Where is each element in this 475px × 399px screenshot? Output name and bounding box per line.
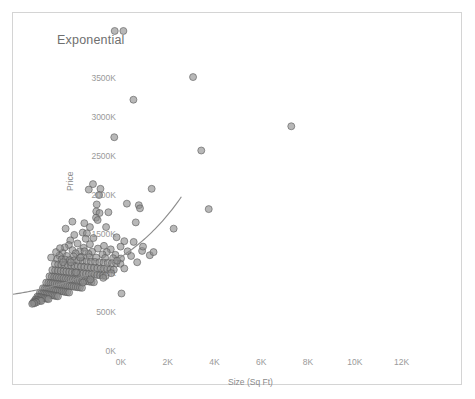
scatter-point[interactable] — [67, 259, 74, 266]
scatter-point[interactable] — [123, 200, 130, 207]
scatter-point[interactable] — [111, 27, 118, 34]
y-tick-label: 0K — [106, 346, 116, 356]
x-tick-label: 12K — [394, 357, 409, 367]
scatter-point[interactable] — [170, 225, 177, 232]
scatter-point[interactable] — [90, 235, 97, 242]
scatter-point[interactable] — [113, 234, 120, 241]
scatter-point[interactable] — [121, 265, 128, 272]
scatter-point[interactable] — [134, 259, 141, 266]
scatter-point[interactable] — [150, 249, 157, 256]
scatter-point[interactable] — [205, 206, 212, 213]
scatter-point[interactable] — [86, 241, 93, 248]
scatter-point[interactable] — [54, 293, 61, 300]
y-tick-label: 500K — [96, 307, 116, 317]
x-tick-label: 4K — [209, 357, 219, 367]
scatter-point[interactable] — [130, 96, 137, 103]
scatter-point[interactable] — [85, 186, 92, 193]
scatter-point[interactable] — [108, 270, 115, 277]
x-tick-label: 8K — [303, 357, 313, 367]
scatter-point[interactable] — [74, 240, 81, 247]
scatter-point[interactable] — [96, 192, 103, 199]
scatter-plot-canvas[interactable] — [13, 13, 317, 306]
scatter-point[interactable] — [62, 225, 69, 232]
scatter-point[interactable] — [118, 290, 125, 297]
scatter-point[interactable] — [93, 201, 100, 208]
scatter-point[interactable] — [48, 254, 55, 261]
scatter-point[interactable] — [128, 252, 135, 259]
scatter-point[interactable] — [132, 219, 139, 226]
x-tick-label: 6K — [256, 357, 266, 367]
scatter-point[interactable] — [69, 218, 76, 225]
scatter-point[interactable] — [148, 185, 155, 192]
scatter-series — [29, 27, 295, 307]
scatter-point[interactable] — [120, 27, 127, 34]
x-tick-label: 2K — [163, 357, 173, 367]
scatter-point[interactable] — [136, 205, 143, 212]
scatter-point[interactable] — [288, 123, 295, 130]
scatter-point[interactable] — [66, 289, 73, 296]
scatter-point[interactable] — [190, 74, 197, 81]
scatter-point[interactable] — [111, 134, 118, 141]
scatter-point[interactable] — [45, 296, 52, 303]
scatter-point[interactable] — [86, 224, 93, 231]
x-tick-label: 10K — [347, 357, 362, 367]
scatter-point[interactable] — [94, 217, 101, 224]
scatter-point[interactable] — [100, 274, 107, 281]
scatter-point[interactable] — [117, 243, 124, 250]
scatter-point[interactable] — [103, 224, 110, 231]
scatter-point[interactable] — [81, 248, 88, 255]
scatter-point[interactable] — [73, 269, 80, 276]
scatter-point[interactable] — [130, 238, 137, 245]
scatter-point[interactable] — [198, 147, 205, 154]
scatter-point[interactable] — [97, 185, 104, 192]
scatter-point[interactable] — [79, 279, 86, 286]
x-tick-label: 0K — [116, 357, 126, 367]
scatter-point[interactable] — [105, 209, 112, 216]
scatter-point[interactable] — [140, 243, 147, 250]
scatter-point[interactable] — [57, 245, 64, 252]
scatter-point[interactable] — [87, 276, 94, 283]
scatter-point[interactable] — [77, 254, 84, 261]
visualization-frame: Exponential Price Size (Sq Ft) 0K500K100… — [12, 12, 462, 385]
scatter-point[interactable] — [60, 259, 67, 266]
scatter-point[interactable] — [29, 300, 36, 307]
x-axis-line — [121, 351, 425, 352]
